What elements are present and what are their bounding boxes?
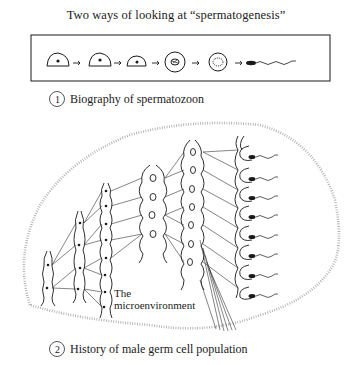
microenvironment-label: The microenvironment xyxy=(114,287,195,311)
column-1 xyxy=(41,251,55,306)
biography-sequence xyxy=(47,52,296,72)
column-5 xyxy=(181,140,204,290)
column-4 xyxy=(139,165,167,263)
caption-biography-text: Biography of spermatozoon xyxy=(70,92,204,107)
column-3 xyxy=(100,183,112,318)
arrow-icon xyxy=(73,61,80,65)
spermatozoa-heads xyxy=(240,146,278,299)
spermatid-icon xyxy=(209,53,227,71)
spermatozoon-icon xyxy=(246,61,256,65)
biography-box xyxy=(31,35,330,81)
arrow-icon xyxy=(235,61,242,65)
arrow-icon xyxy=(114,61,121,65)
arrow-icon xyxy=(192,61,199,65)
badge-1: 1 xyxy=(49,91,66,108)
arrow-icon xyxy=(152,61,159,65)
column-6 xyxy=(235,136,278,299)
caption-biography: 1 Biography of spermatozoon xyxy=(49,91,204,108)
label-line-1: The xyxy=(114,287,195,299)
badge-2: 2 xyxy=(49,341,66,358)
label-line-2: microenvironment xyxy=(114,299,195,311)
caption-history-text: History of male germ cell population xyxy=(70,342,248,357)
caption-history: 2 History of male germ cell population xyxy=(49,341,248,358)
